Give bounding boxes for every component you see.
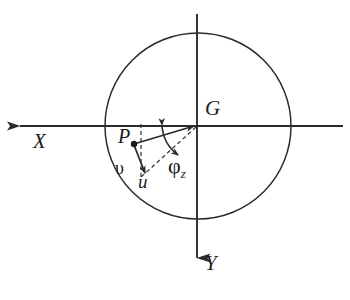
- point-p-label: P: [118, 126, 130, 146]
- u-displacement-arrow: [134, 145, 145, 173]
- u-displacement-label: u: [138, 172, 148, 191]
- rotation-angle-label: φz: [168, 155, 186, 180]
- phi-symbol: φ: [168, 153, 181, 178]
- y-axis-label: Y: [205, 253, 217, 274]
- x-axis-label: X: [33, 131, 46, 152]
- centroid-label: G: [205, 98, 220, 119]
- coordinate-diagram-svg: [0, 0, 350, 300]
- phi-subscript: z: [181, 166, 186, 181]
- figure-container: X Y G P u υ φz: [0, 0, 350, 300]
- v-displacement-label: υ: [115, 159, 124, 177]
- point-p-marker: [131, 141, 137, 147]
